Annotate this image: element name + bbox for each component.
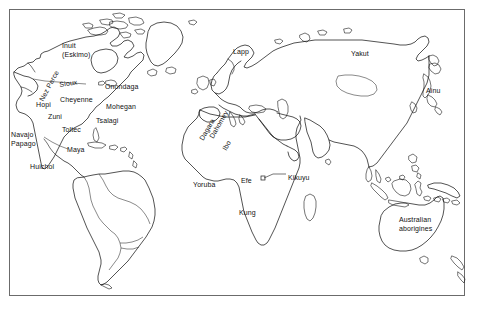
map-label-zuni[interactable]: Zuni [48,113,62,121]
map-label-yakut[interactable]: Yakut [351,50,369,58]
continent-north-america [14,13,157,177]
map-label-yoruba[interactable]: Yoruba [193,181,216,189]
map-label-kung[interactable]: Kung [239,209,256,217]
region-north-atlantic [146,20,216,94]
continent-south-america [73,171,155,289]
map-label-mohegan[interactable]: Mohegan [106,103,136,111]
world-map-figure: Inuit (Eskimo) Nez Perce Sioux Cheyenne … [0,0,478,313]
region-southeast-asia [366,154,460,207]
map-label-australian-aborigines[interactable]: Australian aborigines [399,216,432,233]
map-label-kikuyu[interactable]: Kikuyu [288,174,310,182]
map-label-cheyenne[interactable]: Cheyenne [60,96,93,104]
map-label-tsalagi[interactable]: Tsalagi [96,117,119,125]
map-label-inuit[interactable]: Inuit (Eskimo) [62,42,90,59]
map-label-lapp[interactable]: Lapp [233,48,249,56]
map-label-efe[interactable]: Efe [241,177,252,185]
map-label-navajo-papago[interactable]: Navajo Papago [11,131,36,148]
continent-australia [379,196,465,283]
map-label-huichol[interactable]: Huichol [30,163,54,171]
map-label-hopi[interactable]: Hopi [36,101,51,109]
map-label-ainu[interactable]: Ainu [426,87,440,95]
map-label-toltec[interactable]: Toltec [62,126,81,134]
map-label-onondaga[interactable]: Onondaga [105,83,139,91]
kikuyu-leader [261,174,286,180]
map-label-maya[interactable]: Maya [67,146,85,154]
